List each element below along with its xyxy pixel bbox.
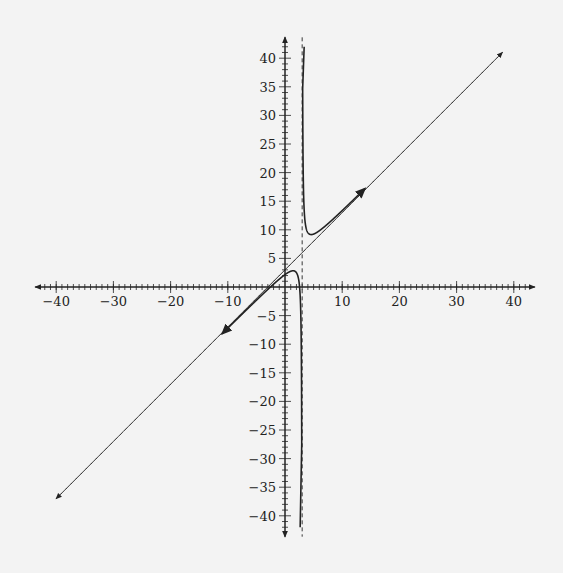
x-tick-label: 40 [506, 294, 523, 309]
x-tick-label: −30 [100, 294, 127, 309]
y-tick-label: −35 [249, 480, 276, 495]
x-tick-label: 10 [334, 294, 351, 309]
x-tick-label: 20 [391, 294, 408, 309]
y-tick-label: −10 [249, 337, 276, 352]
y-tick-label: −25 [249, 423, 276, 438]
y-tick-label: 30 [259, 108, 276, 123]
y-tick-label: 35 [259, 80, 276, 95]
y-tick-label: 10 [259, 223, 276, 238]
y-tick-label: −40 [249, 509, 276, 524]
y-tick-label: −30 [249, 452, 276, 467]
x-tick-label: −20 [157, 294, 184, 309]
x-tick-label: 30 [448, 294, 465, 309]
curve-upper-branch [303, 47, 365, 235]
y-tick-label: −15 [249, 366, 276, 381]
y-tick-label: 25 [259, 137, 276, 152]
y-tick-label: 20 [259, 166, 276, 181]
y-tick-label: 15 [259, 194, 276, 209]
x-tick-label: −10 [214, 294, 241, 309]
y-tick-label: −5 [257, 309, 276, 324]
y-tick-label: 5 [268, 251, 276, 266]
x-tick-label: −40 [42, 294, 69, 309]
chart: −40−30−20−1010203040 −40−35−30−25−20−15−… [0, 0, 563, 573]
y-tick-label: 40 [259, 51, 276, 66]
y-tick-label: −20 [249, 394, 276, 409]
arrow-icon [222, 333, 223, 334]
